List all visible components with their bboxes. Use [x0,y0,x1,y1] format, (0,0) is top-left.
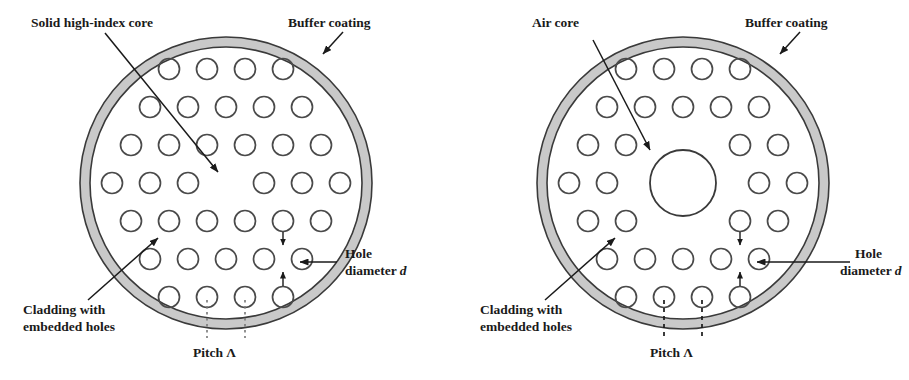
label-solid-core: Solid high-index core [31,15,153,30]
label-air-core: Air core [532,15,579,30]
label-hole-right-line1: Hole [855,246,882,261]
hole-diameter-word-left: diameter [345,263,400,278]
label-hole-right-line2: diameter d [840,263,902,278]
panel-air-core-fiber: Air core Buffer coating Cladding with em… [480,15,902,360]
leader-buffer-left [323,32,343,54]
label-buffer-coating-right: Buffer coating [745,15,828,30]
label-cladding-right-line1: Cladding with [480,302,563,317]
buffer-coating-ring [80,37,372,329]
hole-diameter-word-right: diameter [840,263,895,278]
label-buffer-coating-left: Buffer coating [288,15,371,30]
leader-buffer-right [780,32,800,54]
hole-diameter-symbol-left: d [400,263,407,278]
figure-canvas: Solid high-index core Buffer coating Cla… [0,0,909,380]
label-hole-left-line2: diameter d [345,263,407,278]
label-pitch-right: Pitch Λ [650,345,693,360]
label-hole-left-line1: Hole [345,246,372,261]
label-cladding-left-line1: Cladding with [23,302,106,317]
label-cladding-left-line2: embedded holes [23,319,115,334]
panel-solid-core-fiber: Solid high-index core Buffer coating Cla… [23,15,407,360]
label-cladding-right-line2: embedded holes [480,319,572,334]
pcf-cross-section-figure: Solid high-index core Buffer coating Cla… [0,0,909,380]
label-pitch-left: Pitch Λ [193,345,236,360]
air-core-circle [650,150,716,216]
hole-diameter-symbol-right: d [895,263,902,278]
